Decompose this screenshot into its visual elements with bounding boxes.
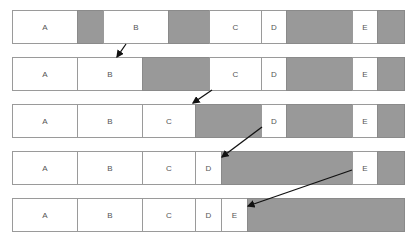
move-arrow-icon xyxy=(222,127,262,157)
arrows-layer xyxy=(0,0,412,240)
move-arrow-icon xyxy=(193,90,212,103)
move-arrow-icon xyxy=(248,170,352,206)
move-arrow-icon xyxy=(117,44,126,57)
